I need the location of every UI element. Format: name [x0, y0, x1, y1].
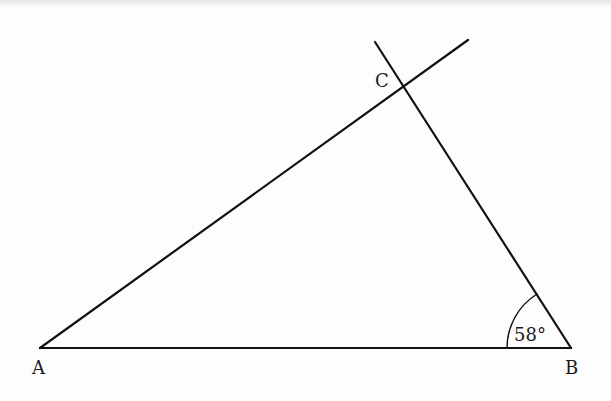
vertex-label-c: C	[375, 70, 389, 91]
angle-b-label: 58°	[514, 324, 546, 345]
vertex-label-b: B	[565, 357, 578, 378]
line-bc-extended	[375, 42, 571, 348]
vertex-label-a: A	[31, 357, 46, 378]
triangle-diagram: A B C 58°	[0, 0, 611, 401]
